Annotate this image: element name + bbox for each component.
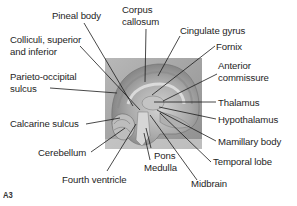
label-medulla: Medulla [144, 162, 177, 173]
label-calcarine-sulcus: Calcarine sulcus [10, 118, 79, 129]
thalamus-shape [142, 96, 164, 110]
label-parieto-occipital-1: Parieto-occipital [10, 71, 77, 82]
anatomy-figure: Pineal bodyCorpuscallosumCingulate gyrus… [0, 0, 297, 206]
label-cingulate-gyrus: Cingulate gyrus [180, 25, 245, 36]
label-fourth-ventricle: Fourth ventricle [62, 174, 127, 185]
label-pons: Pons [154, 150, 175, 161]
label-fornix: Fornix [216, 41, 242, 52]
label-cerebellum: Cerebellum [38, 147, 86, 158]
label-anterior-commissure-1: Anterior [218, 60, 251, 71]
brain-photo [105, 58, 202, 149]
label-hypothalamus: Hypothalamus [218, 114, 278, 125]
label-corpus-callosum-1: Corpus [122, 4, 152, 15]
label-anterior-commissure-2: commissure [218, 72, 269, 83]
label-mamillary-body: Mamillary body [218, 136, 281, 147]
label-colliculi-1: Colliculi, superior [10, 34, 81, 45]
label-temporal-lobe: Temporal lobe [213, 156, 272, 167]
label-parieto-occipital-2: sulcus [10, 83, 37, 94]
label-midbrain: Midbrain [191, 178, 227, 189]
label-pineal-body: Pineal body [52, 10, 101, 21]
figure-id: A3 [3, 190, 13, 200]
label-colliculi-2: and inferior [10, 46, 57, 57]
label-thalamus: Thalamus [218, 97, 259, 108]
label-corpus-callosum-2: callosum [122, 16, 159, 27]
